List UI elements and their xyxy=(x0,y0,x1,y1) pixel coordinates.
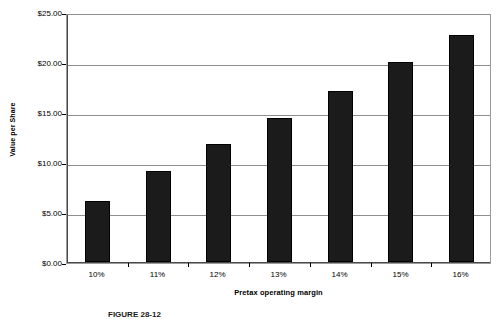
x-tick-label: 12% xyxy=(187,270,248,279)
x-axis-title: Pretax operating margin xyxy=(66,288,491,297)
bar xyxy=(328,91,353,262)
x-tick-label: 10% xyxy=(66,270,127,279)
x-tick-mark xyxy=(128,263,129,267)
x-tick-label: 14% xyxy=(309,270,370,279)
bar-series xyxy=(67,15,490,263)
y-tick-label: $15.00 xyxy=(18,110,62,118)
x-tick-label: 15% xyxy=(370,270,431,279)
y-tick-label: $10.00 xyxy=(18,160,62,168)
y-axis-ticks: $0.00$5.00$10.00$15.00$20.00$25.00 xyxy=(14,0,62,319)
x-tick-mark xyxy=(431,263,432,267)
bar xyxy=(388,62,413,262)
y-tick-mark xyxy=(62,264,66,265)
x-tick-mark xyxy=(249,263,250,267)
bar xyxy=(206,144,231,262)
x-tick-mark xyxy=(310,263,311,267)
x-tick-mark xyxy=(371,263,372,267)
bar xyxy=(267,118,292,262)
y-tick-label: $25.00 xyxy=(18,10,62,18)
y-tick-label: $0.00 xyxy=(18,260,62,268)
x-axis-tick-labels: 10%11%12%13%14%15%16% xyxy=(66,270,491,282)
bar-chart-figure: Value per Share $0.00$5.00$10.00$15.00$2… xyxy=(0,0,501,319)
bar xyxy=(449,35,474,262)
x-tick-label: 13% xyxy=(248,270,309,279)
y-tick-label: $20.00 xyxy=(18,60,62,68)
x-tick-mark xyxy=(188,263,189,267)
bar xyxy=(85,201,110,262)
x-tick-label: 16% xyxy=(430,270,491,279)
x-tick-label: 11% xyxy=(127,270,188,279)
plot-area xyxy=(66,14,491,264)
figure-caption: FIGURE 28-12 xyxy=(108,310,448,319)
bar xyxy=(146,171,171,262)
y-tick-label: $5.00 xyxy=(18,210,62,218)
